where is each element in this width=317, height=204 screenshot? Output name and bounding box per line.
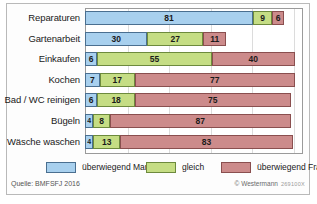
legend-swatch [221,162,251,173]
bar-segment-red: 87 [110,114,291,128]
category-label: Bügeln [0,111,80,131]
bar-segment-blue: 7 [85,73,100,87]
bar-row: Wäsche waschen41383 [0,132,317,152]
category-label: Gartenarbeit [0,29,80,49]
legend-item[interactable]: überwiegend Frau [221,158,317,176]
bar-segment-green: 27 [147,32,203,46]
bar-segment-red: 40 [212,52,295,66]
bar-segment-blue: 4 [85,135,93,149]
category-label: Kochen [0,70,80,90]
source-note: Quelle: BMFSFJ 2016 [11,180,80,187]
stacked-bar: 71777 [85,73,303,87]
category-label: Bad / WC reinigen [0,90,80,110]
legend-swatch [146,162,176,173]
stacked-bar: 41383 [85,135,303,149]
legend-label: überwiegend Frau [257,162,317,172]
category-label: Wäsche waschen [0,132,80,152]
category-label: Reparaturen [0,8,80,28]
bar-rows: Reparaturen8196Gartenarbeit302711Einkauf… [0,8,317,154]
bar-segment-red: 77 [135,73,295,87]
bar-segment-green: 9 [253,11,272,25]
legend-item[interactable]: überwiegend Mann [46,158,154,176]
bar-segment-green: 55 [97,52,211,66]
bar-row: Bad / WC reinigen61875 [0,90,317,110]
legend-label: gleich [182,162,204,172]
copyright-note: © Westermann269100X [235,180,305,187]
bar-segment-blue: 81 [85,11,253,25]
bar-segment-red: 6 [272,11,284,25]
legend-label: überwiegend Mann [82,162,154,172]
bar-row: Reparaturen8196 [0,8,317,28]
stacked-bar: 4887 [85,114,303,128]
stacked-bar: 8196 [85,11,303,25]
bar-segment-blue: 6 [85,52,97,66]
bar-row: Kochen71777 [0,70,317,90]
bar-segment-blue: 6 [85,93,97,107]
copyright-text: © Westermann [235,180,278,187]
bar-segment-green: 17 [100,73,135,87]
legend-item[interactable]: gleich [146,158,204,176]
legend-swatch [46,162,76,173]
category-label: Einkaufen [0,49,80,69]
bar-segment-red: 11 [203,32,226,46]
bar-segment-red: 75 [135,93,291,107]
bar-segment-red: 83 [120,135,292,149]
bar-segment-blue: 4 [85,114,93,128]
bar-segment-green: 13 [93,135,120,149]
bar-row: Einkaufen65540 [0,49,317,69]
stacked-bar: 302711 [85,32,303,46]
chart-legend: überwiegend Manngleichüberwiegend Frau [6,158,310,176]
stacked-bar: 61875 [85,93,303,107]
bar-row: Bügeln4887 [0,111,317,131]
bar-segment-green: 18 [97,93,134,107]
copyright-code: 269100X [281,181,305,187]
stacked-bar: 65540 [85,52,303,66]
chart-figure: Reparaturen8196Gartenarbeit302711Einkauf… [0,0,317,204]
bar-segment-green: 8 [93,114,110,128]
bar-segment-blue: 30 [85,32,147,46]
bar-row: Gartenarbeit302711 [0,29,317,49]
